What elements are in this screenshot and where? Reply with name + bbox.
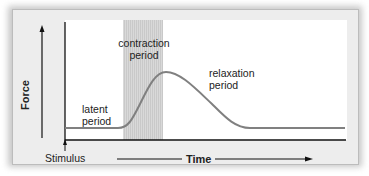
contraction-period-label: contraction period bbox=[115, 37, 173, 61]
y-axis-label: Force bbox=[19, 80, 31, 110]
twitch-diagram bbox=[0, 0, 369, 176]
latent-period-label: latent period bbox=[82, 103, 111, 127]
relaxation-period-label: relaxation period bbox=[209, 67, 255, 91]
stimulus-label: Stimulus bbox=[45, 152, 85, 164]
x-axis-label: Time bbox=[186, 153, 211, 165]
